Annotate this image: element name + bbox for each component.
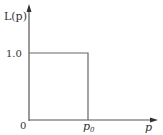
origin-label: 0 [20, 120, 26, 131]
y-tick-1: 1.0 [6, 48, 22, 59]
x-tick-p0: p0 [83, 120, 95, 134]
loss-curve [29, 53, 88, 120]
y-axis-label: L(p) [4, 10, 27, 23]
x-axis-label: p [145, 121, 152, 134]
y-axis-arrow-icon [27, 4, 32, 12]
chart-svg: L(p) 1.0 0 p0 p [0, 0, 163, 135]
